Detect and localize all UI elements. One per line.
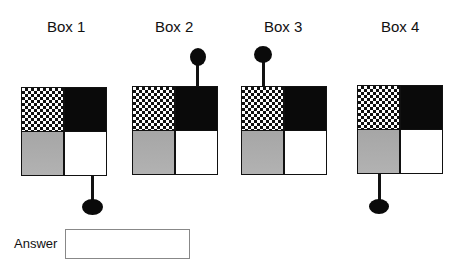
box-2-knob-icon	[190, 48, 206, 66]
black-quadrant	[401, 86, 442, 129]
black-quadrant	[176, 87, 217, 130]
box-3	[241, 86, 327, 175]
box-3-label: Box 3	[264, 18, 302, 36]
black-quadrant	[65, 88, 106, 131]
box-3-knob-icon	[254, 46, 272, 63]
checkered-quadrant	[22, 88, 63, 131]
white-quadrant	[176, 131, 217, 174]
box-4	[357, 85, 443, 174]
box-4-knob-stem	[378, 173, 381, 201]
gray-quadrant	[133, 131, 174, 174]
white-quadrant	[285, 131, 326, 174]
gray-quadrant	[358, 130, 399, 173]
box-2	[132, 86, 218, 175]
checkered-quadrant	[242, 87, 283, 130]
answer-input[interactable]	[65, 229, 190, 259]
black-quadrant	[285, 87, 326, 130]
box-3-knob-stem	[262, 60, 265, 87]
gray-quadrant	[22, 132, 63, 175]
box-2-label: Box 2	[155, 18, 193, 36]
box-1-knob-icon	[82, 199, 103, 215]
box-4-knob-icon	[369, 199, 389, 214]
box-4-label: Box 4	[381, 18, 419, 36]
answer-label: Answer	[14, 236, 57, 252]
box-1	[21, 87, 107, 176]
gray-quadrant	[242, 131, 283, 174]
white-quadrant	[65, 132, 106, 175]
checkered-quadrant	[133, 87, 174, 130]
checkered-quadrant	[358, 86, 399, 129]
box-1-knob-stem	[91, 175, 94, 201]
box-1-label: Box 1	[47, 18, 85, 36]
white-quadrant	[401, 130, 442, 173]
